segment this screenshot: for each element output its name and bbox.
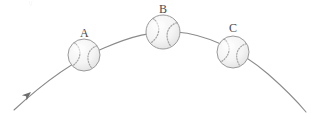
faint-top-marking-group [29, 1, 32, 6]
ball-highlight [222, 41, 235, 51]
ball-body [146, 15, 180, 49]
ball-highlight [151, 20, 165, 30]
ball-label-c: C [229, 22, 237, 34]
baseball-group [68, 15, 249, 71]
baseball-trajectory-figure: A B C [0, 0, 311, 114]
ball-label-a: A [80, 27, 89, 39]
ball-c [217, 36, 249, 68]
ball-b [146, 15, 180, 49]
ball-highlight [73, 44, 86, 54]
ball-label-b: B [159, 3, 167, 15]
trajectory-diagram-canvas [0, 0, 311, 114]
ball-body [217, 36, 249, 68]
ball-body [68, 39, 100, 71]
ball-a [68, 39, 100, 71]
